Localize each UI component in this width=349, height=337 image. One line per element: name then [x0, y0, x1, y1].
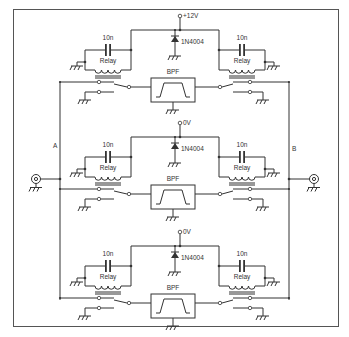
relay-switch-left: [60, 187, 151, 211]
relay-left: 10nRelay: [70, 34, 132, 78]
supply-terminal: 0V: [178, 119, 191, 137]
ground-icon: [70, 169, 83, 177]
capacitor-label: 10n: [103, 141, 114, 148]
capacitor-label: 10n: [103, 250, 114, 257]
bpf-label: BPF: [167, 68, 180, 75]
capacitor-icon: [239, 44, 245, 56]
circuit-diagram: A B +12V1N400410nRelay10nRelayBPF 0V1N40…: [0, 0, 349, 337]
relay-switch-right: [195, 80, 289, 104]
diode-icon: [171, 137, 179, 159]
relay-coil-icon: [95, 177, 121, 185]
capacitor-icon: [239, 260, 245, 272]
relay-label: Relay: [100, 164, 117, 172]
capacitor-label: 10n: [237, 141, 248, 148]
ground-icon: [267, 278, 280, 286]
filter-stage-2: 0V1N400410nRelay10nRelayBPF: [59, 119, 290, 221]
ground-icon: [29, 184, 42, 192]
relay-right: 10nRelay: [218, 141, 280, 185]
relay-label: Relay: [100, 273, 117, 281]
capacitor-icon: [105, 44, 111, 56]
port-a-connector: [29, 175, 61, 192]
ground-icon: [78, 203, 91, 211]
ground-icon: [256, 203, 269, 211]
ground-icon: [256, 96, 269, 104]
ground-icon: [78, 96, 91, 104]
capacitor-icon: [239, 151, 245, 163]
relay-coil-icon: [229, 70, 255, 78]
ground-icon: [267, 62, 280, 70]
filter-stage-1: +12V1N400410nRelay10nRelayBPF: [59, 12, 290, 114]
relay-label: Relay: [234, 57, 251, 65]
relay-label: Relay: [100, 57, 117, 65]
ground-icon: [166, 322, 179, 330]
diode-label: 1N4004: [181, 254, 204, 261]
bandpass-filter-block: [151, 78, 195, 114]
filter-stage-3: 0V1N400410nRelay10nRelayBPF: [59, 228, 290, 330]
relay-coil-icon: [95, 286, 121, 294]
relay-coil-icon: [229, 177, 255, 185]
ground-icon: [70, 278, 83, 286]
capacitor-label: 10n: [103, 34, 114, 41]
supply-terminal: +12V: [178, 12, 199, 30]
ground-icon: [267, 169, 280, 177]
relay-coil-icon: [229, 286, 255, 294]
capacitor-icon: [105, 260, 111, 272]
ground-icon: [166, 106, 179, 114]
relay-label: Relay: [234, 164, 251, 172]
diode-label: 1N4004: [181, 38, 204, 45]
supply-label: 0V: [183, 119, 192, 126]
ground-icon: [166, 213, 179, 221]
ground-icon: [78, 312, 91, 320]
diode-icon: [171, 246, 179, 268]
ground-icon: [307, 184, 320, 192]
port-a-label: A: [53, 142, 58, 149]
bandpass-filter-block: [151, 185, 195, 221]
ground-icon: [168, 268, 181, 276]
relay-left: 10nRelay: [70, 250, 132, 294]
diode-label: 1N4004: [181, 145, 204, 152]
capacitor-icon: [105, 151, 111, 163]
relay-right: 10nRelay: [218, 250, 280, 294]
capacitor-label: 10n: [237, 250, 248, 257]
supply-terminal: 0V: [178, 228, 191, 246]
supply-label: +12V: [183, 12, 199, 19]
ground-icon: [256, 312, 269, 320]
ground-icon: [70, 62, 83, 70]
port-b-label: B: [292, 145, 296, 152]
frame-border: [14, 10, 339, 327]
relay-switch-left: [60, 296, 151, 320]
ground-icon: [168, 159, 181, 167]
supply-label: 0V: [183, 228, 192, 235]
bandpass-filter-block: [151, 294, 195, 330]
port-b-connector: [288, 175, 320, 192]
diode-icon: [171, 30, 179, 52]
relay-right: 10nRelay: [218, 34, 280, 78]
relay-label: Relay: [234, 273, 251, 281]
bpf-label: BPF: [167, 284, 180, 291]
relay-switch-left: [60, 80, 151, 104]
relay-switch-right: [195, 187, 289, 211]
relay-left: 10nRelay: [70, 141, 132, 185]
capacitor-label: 10n: [237, 34, 248, 41]
relay-coil-icon: [95, 70, 121, 78]
relay-switch-right: [195, 296, 289, 320]
bpf-label: BPF: [167, 175, 180, 182]
ground-icon: [168, 52, 181, 60]
